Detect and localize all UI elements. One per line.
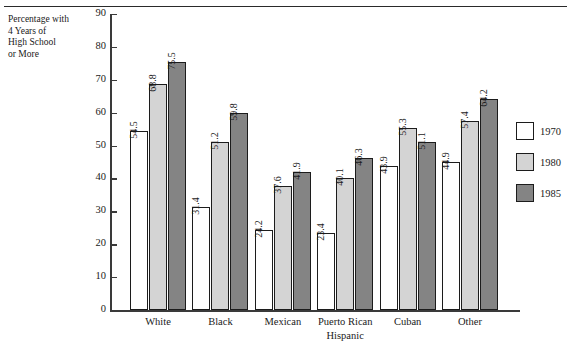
bar[interactable]: 44.9: [442, 162, 460, 310]
y-axis-tick: 10: [110, 277, 117, 278]
x-axis-category-label: Black: [208, 316, 233, 327]
legend-item[interactable]: 1985: [516, 184, 561, 202]
bar[interactable]: 40.1: [336, 178, 354, 310]
x-axis-category-label: Cuban: [394, 316, 421, 327]
legend-label: 1970: [540, 126, 561, 137]
bar-group: 23.440.146.3Puerto Rican: [317, 14, 373, 310]
x-axis-category-label: Other: [458, 316, 482, 327]
legend-color-swatch: [516, 184, 534, 202]
bar[interactable]: 23.4: [317, 233, 335, 310]
legend-color-swatch: [516, 153, 534, 171]
bar-group: 24.237.641.9Mexican: [255, 14, 311, 310]
bar-value-label: 23.4: [316, 223, 326, 241]
y-axis-tick: 50: [110, 146, 117, 147]
y-axis-tick: 60: [110, 113, 117, 114]
bar-value-label: 55.3: [398, 118, 408, 136]
legend-label: 1980: [540, 157, 561, 168]
y-axis-caption: Percentage with 4 Years of High School o…: [8, 14, 100, 60]
legend-color-swatch: [516, 122, 534, 140]
y-axis-tick: 20: [110, 244, 117, 245]
bar[interactable]: 55.3: [399, 128, 417, 310]
y-axis-tick: 30: [110, 211, 117, 212]
bar[interactable]: 64.2: [480, 99, 498, 310]
chart-legend: 197019801985: [516, 122, 561, 215]
bar-value-label: 51.2: [210, 132, 220, 150]
y-axis-tick-label: 90: [76, 7, 106, 18]
bar[interactable]: 37.6: [274, 186, 292, 310]
bar-group: 44.957.464.2Other: [442, 14, 498, 310]
y-axis-tick-label: 10: [76, 270, 106, 281]
caption-line-2: 4 Years of: [8, 26, 100, 38]
y-axis-tick: 40: [110, 178, 117, 179]
bar[interactable]: 24.2: [255, 230, 273, 310]
bar-value-label: 57.4: [460, 111, 470, 129]
bar[interactable]: 51.2: [211, 142, 229, 310]
x-axis-category-label: Puerto Rican: [318, 316, 373, 327]
legend-label: 1985: [540, 188, 561, 199]
bar-group: 43.955.351.1Cuban: [380, 14, 436, 310]
bar-value-label: 44.9: [441, 153, 451, 171]
bar[interactable]: 59.8: [230, 113, 248, 310]
x-axis-category-label: Mexican: [264, 316, 301, 327]
bar-chart-plot-area: 0102030405060708090 54.568.875.5White31.…: [110, 14, 520, 310]
bar-value-label: 75.5: [167, 52, 177, 70]
bar[interactable]: 57.4: [461, 121, 479, 310]
bar-group: 54.568.875.5White: [130, 14, 186, 310]
bar[interactable]: 54.5: [130, 131, 148, 310]
y-axis-tick: 90: [110, 14, 117, 15]
bar-value-label: 41.9: [292, 162, 302, 180]
y-axis-tick: 80: [110, 47, 117, 48]
x-axis-group-annotation-label: Hispanic: [327, 330, 364, 341]
bar-value-label: 40.1: [335, 168, 345, 186]
y-axis-tick-label: 40: [76, 171, 106, 182]
bar-value-label: 43.9: [379, 156, 389, 174]
bar[interactable]: 46.3: [355, 158, 373, 310]
x-axis-category-label: White: [145, 316, 171, 327]
y-axis-tick-label: 60: [76, 106, 106, 117]
y-axis-tick-label: 30: [76, 204, 106, 215]
y-axis-tick-label: 70: [76, 73, 106, 84]
bar[interactable]: 51.1: [418, 142, 436, 310]
bar[interactable]: 68.8: [149, 84, 167, 310]
bar-value-label: 46.3: [354, 148, 364, 166]
y-axis-tick: 0: [110, 310, 117, 311]
bar[interactable]: 75.5: [168, 62, 186, 310]
x-axis-line: [110, 310, 520, 312]
y-axis-tick: 70: [110, 80, 117, 81]
bar[interactable]: 43.9: [380, 166, 398, 310]
y-axis-tick-label: 0: [76, 303, 106, 314]
y-axis-line: [110, 14, 112, 310]
bar-value-label: 51.1: [417, 132, 427, 150]
y-axis-tick-label: 50: [76, 139, 106, 150]
bar[interactable]: 41.9: [293, 172, 311, 310]
bar-value-label: 64.2: [479, 89, 489, 107]
bar-group: 31.451.259.8Black: [192, 14, 248, 310]
bar-value-label: 68.8: [148, 74, 158, 92]
bar[interactable]: 31.4: [192, 207, 210, 310]
y-axis-tick-label: 80: [76, 40, 106, 51]
bar-value-label: 59.8: [229, 104, 239, 122]
bar-value-label: 31.4: [191, 197, 201, 215]
legend-item[interactable]: 1980: [516, 153, 561, 171]
bar-value-label: 54.5: [129, 121, 139, 139]
y-axis-tick-label: 20: [76, 237, 106, 248]
bar-value-label: 24.2: [254, 221, 264, 239]
bar-value-label: 37.6: [273, 177, 283, 195]
legend-item[interactable]: 1970: [516, 122, 561, 140]
